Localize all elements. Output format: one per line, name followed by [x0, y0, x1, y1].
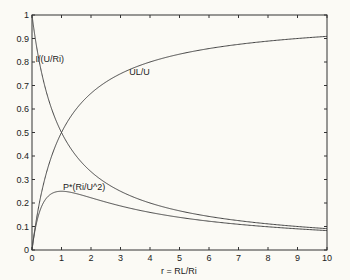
y-tick-label: 0.5	[16, 128, 29, 138]
x-tick-label: 8	[265, 253, 270, 263]
x-tick-label: 2	[88, 253, 93, 263]
y-tick-label: 0.6	[16, 104, 29, 114]
series-label-2: P*(Ri/U^2)	[63, 182, 105, 192]
x-tick-label: 0	[29, 253, 34, 263]
y-tick-label: 0.2	[16, 198, 29, 208]
y-tick-label: 0.1	[16, 222, 29, 232]
x-tick-label: 3	[118, 253, 123, 263]
series-label-1: UL/U	[129, 67, 150, 77]
series-line-2	[32, 191, 327, 250]
curves	[32, 15, 327, 250]
y-tick-label: 0.7	[16, 81, 29, 91]
y-tick-label: 1	[24, 10, 29, 20]
y-tick-label: 0.3	[16, 175, 29, 185]
x-tick-label: 9	[295, 253, 300, 263]
x-tick-label: 10	[322, 253, 332, 263]
series-line-1	[32, 36, 327, 250]
chart: 01234567891000.10.20.30.40.50.60.70.80.9…	[0, 0, 350, 280]
series-line-0	[32, 15, 327, 229]
x-axis-label: r = RL/Ri	[161, 266, 197, 276]
plot-frame	[32, 15, 327, 250]
x-tick-label: 5	[177, 253, 182, 263]
x-tick-label: 1	[59, 253, 64, 263]
y-tick-label: 0	[24, 245, 29, 255]
y-tick-label: 0.4	[16, 151, 29, 161]
series-label-0: I/(U/Ri)	[36, 54, 65, 64]
y-tick-label: 0.8	[16, 57, 29, 67]
curve-labels: I/(U/Ri)UL/UP*(Ri/U^2)	[36, 54, 150, 192]
x-tick-label: 6	[206, 253, 211, 263]
x-tick-label: 4	[147, 253, 152, 263]
y-tick-label: 0.9	[16, 34, 29, 44]
x-tick-label: 7	[236, 253, 241, 263]
